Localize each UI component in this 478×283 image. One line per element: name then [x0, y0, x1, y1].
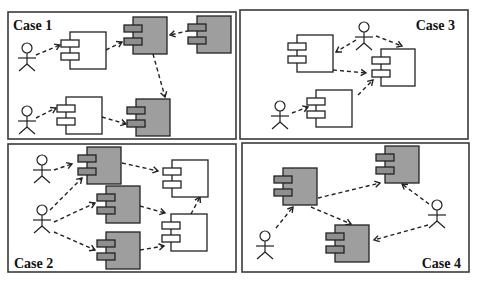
- component-port: [57, 105, 75, 112]
- component-body: [70, 32, 106, 69]
- component-body: [171, 214, 207, 251]
- component-port: [97, 207, 115, 214]
- component-body: [172, 160, 208, 197]
- component-port: [97, 194, 115, 201]
- component-port: [307, 98, 325, 105]
- component-port: [163, 181, 181, 188]
- component-port: [163, 168, 181, 175]
- component-port: [97, 253, 115, 260]
- component-port: [326, 246, 344, 253]
- component-body: [133, 17, 167, 54]
- component-port: [188, 37, 206, 44]
- component-port: [274, 176, 292, 183]
- component-port: [188, 24, 206, 31]
- component-body: [136, 99, 170, 136]
- component-port: [372, 70, 390, 77]
- component-port: [78, 168, 96, 175]
- component-port: [372, 57, 390, 64]
- component-port: [78, 155, 96, 162]
- component-body: [106, 232, 140, 269]
- component-port: [97, 240, 115, 247]
- component-body: [197, 16, 231, 53]
- case-label: Case 3: [416, 18, 455, 33]
- component-port: [61, 40, 79, 47]
- component-port: [326, 233, 344, 240]
- component-body: [106, 186, 140, 223]
- component-port: [127, 107, 145, 114]
- component-port: [124, 25, 142, 32]
- component-port: [288, 43, 306, 50]
- component-body: [283, 168, 317, 205]
- component-body: [87, 147, 121, 184]
- panel-case-2: Case 2: [8, 144, 236, 272]
- component-port: [376, 154, 394, 161]
- panel-case-3: Case 3: [240, 10, 468, 139]
- component-body: [381, 49, 415, 86]
- component-port: [274, 189, 292, 196]
- component-port: [162, 235, 180, 242]
- component-body: [335, 225, 369, 262]
- component-body: [316, 90, 352, 127]
- component-port: [127, 120, 145, 127]
- diagram-canvas: Case 1 Case 3 Case 2 Case 4: [0, 0, 478, 283]
- component-port: [124, 38, 142, 45]
- component-body: [297, 35, 333, 72]
- component-port: [57, 118, 75, 125]
- case-label: Case 1: [13, 18, 52, 33]
- panel-case-1: Case 1: [8, 12, 236, 139]
- component-port: [162, 222, 180, 229]
- component-port: [307, 111, 325, 118]
- component-body: [66, 97, 102, 134]
- component-port: [61, 53, 79, 60]
- case-label: Case 4: [422, 256, 461, 271]
- panel-case-4: Case 4: [242, 143, 469, 272]
- case-label: Case 2: [14, 256, 53, 271]
- component-body: [385, 146, 419, 183]
- component-port: [376, 167, 394, 174]
- component-port: [288, 56, 306, 63]
